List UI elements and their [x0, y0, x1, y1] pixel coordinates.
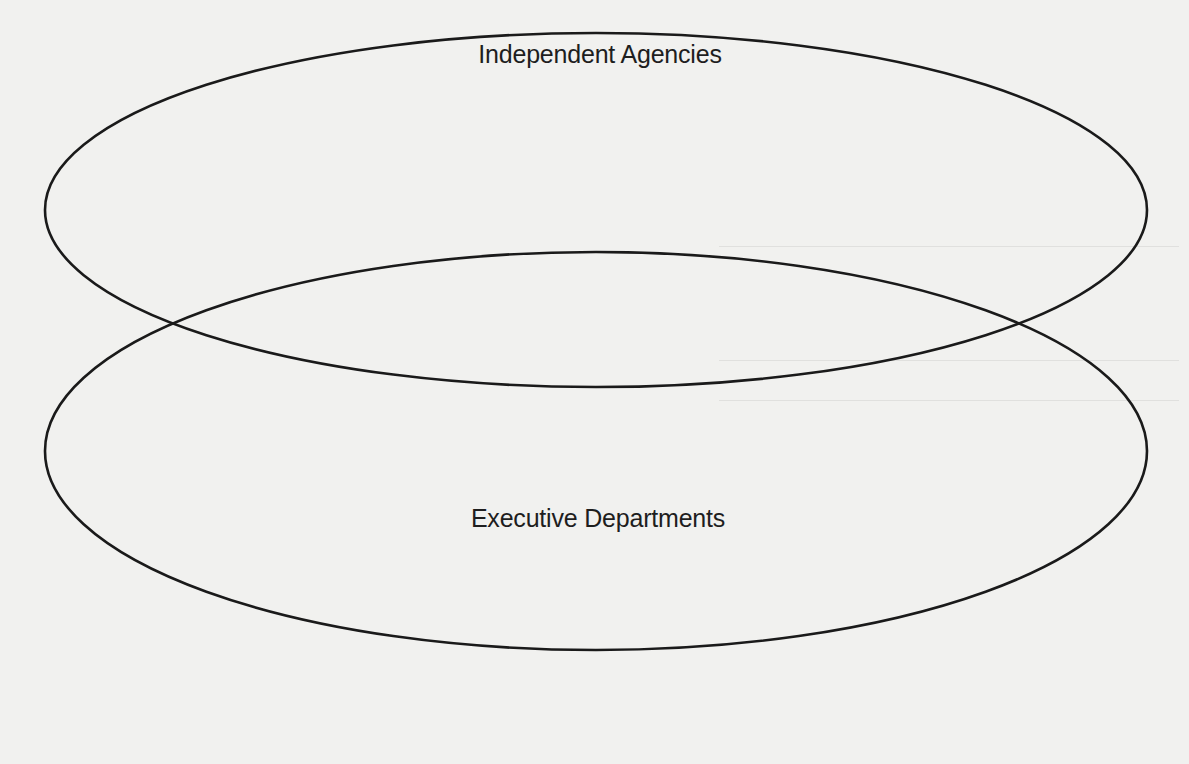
independent-agencies-label: Independent Agencies: [478, 40, 721, 69]
venn-diagram: [0, 0, 1189, 764]
executive-departments-label: Executive Departments: [471, 504, 725, 533]
independent-agencies-ellipse: [45, 33, 1147, 387]
venn-diagram-page: Independent Agencies Executive Departmen…: [0, 0, 1189, 764]
executive-departments-ellipse: [45, 252, 1147, 650]
